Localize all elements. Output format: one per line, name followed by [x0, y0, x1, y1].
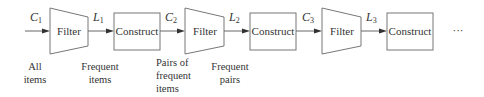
continuation-ellipsis: ···	[453, 24, 464, 36]
edge-c1: C1	[25, 10, 50, 34]
svg-text:All: All	[28, 61, 42, 72]
caption-frequent-items: Frequent items	[81, 61, 118, 85]
svg-text:Filter: Filter	[57, 25, 81, 37]
edge-c2: C2	[160, 10, 185, 34]
svg-text:Pairs of: Pairs of	[156, 57, 189, 68]
filter-block-1: Filter	[50, 8, 88, 54]
svg-text:C1: C1	[30, 10, 42, 25]
a-priori-pipeline-diagram: C1 Filter L1 Construct C2 Filter L2 Cons…	[0, 0, 484, 97]
svg-text:Filter: Filter	[330, 25, 354, 37]
svg-text:Construct: Construct	[252, 25, 295, 37]
svg-text:Filter: Filter	[193, 25, 217, 37]
svg-text:Construct: Construct	[389, 25, 432, 37]
svg-text:items: items	[89, 74, 112, 85]
filter-block-2: Filter	[185, 8, 224, 54]
svg-text:L1: L1	[92, 10, 104, 25]
svg-text:frequent: frequent	[156, 70, 191, 81]
caption-all-items: All items	[24, 61, 47, 85]
svg-text:pairs: pairs	[220, 74, 240, 85]
svg-text:C3: C3	[302, 10, 314, 25]
edge-c3: C3	[296, 10, 322, 34]
svg-text:items: items	[156, 83, 179, 94]
construct-block-1: Construct	[114, 13, 160, 50]
filter-block-3: Filter	[322, 8, 361, 54]
svg-text:Construct: Construct	[116, 25, 159, 37]
edge-l2: L2	[224, 10, 250, 34]
construct-block-2: Construct	[250, 13, 296, 50]
caption-pairs-of-frequent-items: Pairs of frequent items	[156, 57, 191, 94]
caption-frequent-pairs: Frequent pairs	[211, 61, 248, 85]
svg-text:Frequent: Frequent	[211, 61, 248, 72]
edge-l1: L1	[88, 10, 114, 34]
svg-text:Frequent: Frequent	[81, 61, 118, 72]
svg-text:L2: L2	[228, 10, 240, 25]
edge-l3: L3	[361, 10, 387, 34]
svg-text:L3: L3	[365, 10, 377, 25]
construct-block-3: Construct	[387, 13, 433, 50]
svg-text:items: items	[24, 74, 47, 85]
svg-text:C2: C2	[165, 10, 177, 25]
